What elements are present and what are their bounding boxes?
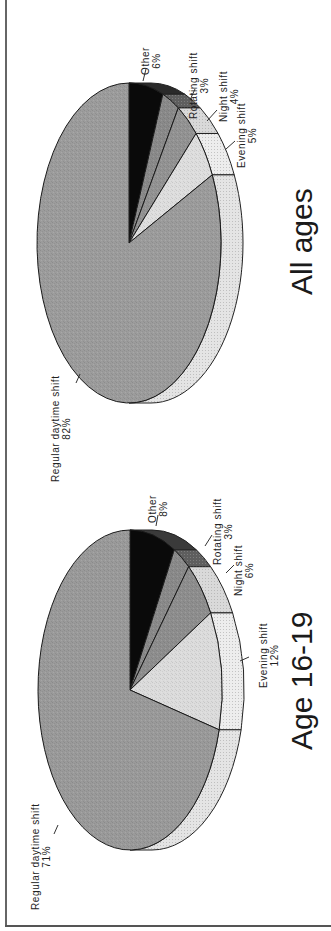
label-percent: 71%: [41, 803, 52, 910]
label-regular-all-ages: Regular daytime shift 82%: [50, 375, 72, 482]
label-evening-all-ages: Evening shift 5%: [236, 103, 258, 168]
label-name: Rotating shift: [188, 52, 199, 119]
label-percent: 12%: [269, 623, 280, 688]
label-name: Regular daytime shift: [50, 375, 61, 482]
leader-evening-all: [226, 141, 235, 149]
label-regular-age-16-19: Regular daytime shift 71%: [30, 803, 52, 910]
label-other-all-ages: Other 6%: [140, 47, 162, 75]
panel-title-all-ages: All ages: [287, 188, 317, 295]
pie-chart-age-16-19: [38, 530, 244, 850]
label-percent: 6%: [151, 47, 162, 75]
label-evening-age-16-19: Evening shift 12%: [258, 623, 280, 688]
pie-chart-all-ages: [37, 83, 243, 403]
leader-rotating-16-19: [205, 535, 212, 546]
label-name: Evening shift: [236, 103, 247, 168]
label-percent: 5%: [247, 103, 258, 168]
label-name: Night shift: [233, 545, 244, 596]
label-percent: 8%: [158, 495, 169, 523]
label-rotating-age-16-19: Rotating shift 3%: [212, 498, 234, 565]
panel-title-age-16-19: Age 16-19: [287, 612, 317, 750]
label-name: Other: [140, 47, 151, 75]
rotated-figure: Other 6% Rotating shift 3% Night shift 4…: [0, 0, 331, 931]
label-percent: 6%: [244, 545, 255, 596]
label-name: Rotating shift: [212, 498, 223, 565]
label-percent: 82%: [61, 375, 72, 482]
label-name: Other: [147, 495, 158, 523]
label-name: Regular daytime shift: [30, 803, 41, 910]
leader-regular-16-19: [54, 825, 58, 834]
label-rotating-all-ages: Rotating shift 3%: [188, 52, 210, 119]
label-name: Evening shift: [258, 623, 269, 688]
label-night-age-16-19: Night shift 6%: [233, 545, 255, 596]
label-percent: 3%: [199, 52, 210, 119]
label-name: Night shift: [218, 71, 229, 122]
label-other-age-16-19: Other 8%: [147, 495, 169, 523]
